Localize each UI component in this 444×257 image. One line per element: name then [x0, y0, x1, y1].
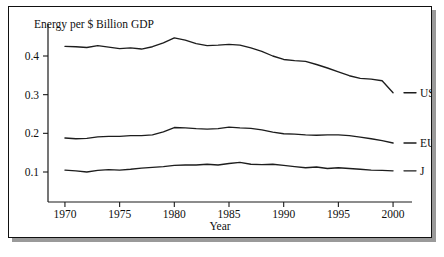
series-line-j — [65, 162, 393, 172]
y-axis-ticks: 0.10.20.30.4 — [25, 50, 48, 178]
x-tick-label: 1995 — [327, 208, 350, 220]
x-tick-label: 2000 — [382, 208, 405, 220]
series-label-eu: EU — [420, 137, 432, 149]
y-tick-label: 0.1 — [25, 166, 40, 178]
y-tick-label: 0.4 — [25, 50, 40, 62]
axes — [48, 24, 412, 202]
y-tick-label: 0.3 — [25, 89, 40, 101]
figure-root: 0.10.20.30.4 197019751980198519901995200… — [0, 0, 444, 257]
x-tick-label: 1975 — [108, 208, 131, 220]
line-chart: 0.10.20.30.4 197019751980198519901995200… — [8, 6, 432, 238]
y-tick-label: 0.2 — [25, 127, 40, 139]
x-tick-label: 1990 — [272, 208, 295, 220]
series-line-eu — [65, 127, 393, 143]
x-tick-label: 1980 — [163, 208, 186, 220]
series-label-j: J — [420, 165, 425, 177]
x-tick-label: 1970 — [53, 208, 76, 220]
x-axis-ticks: 1970197519801985199019952000 — [53, 202, 404, 220]
x-axis-title: Year — [209, 220, 230, 232]
y-axis-title: Energy per $ Billion GDP — [34, 18, 154, 31]
series-line-us — [65, 38, 393, 93]
x-tick-label: 1985 — [218, 208, 241, 220]
series-end-labels: USEUJ — [404, 87, 432, 177]
series-label-us: US — [420, 87, 432, 99]
data-series — [65, 38, 393, 172]
